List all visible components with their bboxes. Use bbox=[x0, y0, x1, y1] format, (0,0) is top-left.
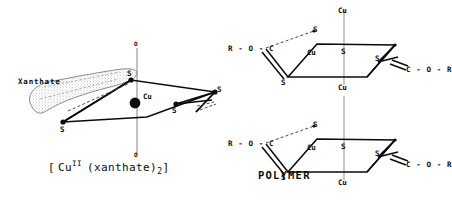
polymer-upper-axial-cu-bottom: Cu bbox=[338, 84, 347, 92]
polymer-unit-lower-drawing bbox=[262, 96, 408, 180]
polymer-upper-sulfur-right: S bbox=[375, 55, 379, 63]
sulfur-label-left-bottom: S bbox=[60, 126, 64, 134]
caption-close-bracket: ] bbox=[162, 161, 169, 174]
polymer-lower-right-chain: C - O - R bbox=[406, 161, 452, 169]
polymer-lower-sulfur-right: S bbox=[375, 150, 379, 158]
caption-metal: Cu bbox=[58, 161, 72, 174]
polymer-upper-axial-cu-top: Cu bbox=[338, 7, 347, 15]
polymer-upper-sulfur-upper-left: S bbox=[313, 26, 317, 34]
sulfur-label-right-outer: S bbox=[217, 86, 221, 94]
xanthate-highlight-region bbox=[30, 69, 138, 113]
polymer-lower-center-cu: Cu bbox=[307, 144, 316, 152]
polymer-unit-upper-drawing bbox=[262, 10, 408, 85]
axial-oxygen-bottom-label: O bbox=[134, 152, 137, 158]
polymer-label: POLYMER bbox=[258, 170, 311, 181]
polymer-lower-left-chain: R - O - C bbox=[228, 140, 274, 148]
polymer-upper-left-chain: R - O - C bbox=[228, 45, 274, 53]
axial-oxygen-top-label: O bbox=[134, 41, 137, 47]
polymer-upper-right-chain: C - O - R bbox=[406, 66, 452, 74]
caption-oxidation-state: II bbox=[72, 159, 82, 168]
chelate-bonds-right bbox=[176, 92, 215, 112]
polymer-lower-sulfur-upper-left: S bbox=[313, 121, 317, 129]
polymer-lower-inner-sulfur: S bbox=[341, 143, 345, 151]
sulfur-label-left-top: S bbox=[127, 70, 131, 78]
copper-center-label-left: Cu bbox=[143, 93, 152, 101]
polymer-upper-inner-sulfur: S bbox=[341, 48, 345, 56]
caption-open-bracket: [ bbox=[48, 161, 55, 174]
copper-center-dot-left bbox=[130, 98, 141, 109]
polymer-upper-sulfur-lower-left: S bbox=[281, 79, 285, 87]
caption-ligand: (xanthate) bbox=[87, 161, 157, 174]
polymer-upper-center-cu: Cu bbox=[307, 49, 316, 57]
complex-caption: [CuII(xanthate)2] bbox=[48, 160, 169, 176]
sulfur-label-right-inner: S bbox=[172, 107, 176, 115]
xanthate-callout-label: Xanthate bbox=[18, 78, 61, 86]
polymer-lower-axial-cu-bottom: Cu bbox=[338, 179, 347, 187]
